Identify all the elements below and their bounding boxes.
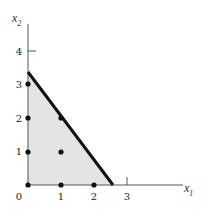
x-tick-label-0: 0 xyxy=(16,191,22,202)
x-axis-label: x1 xyxy=(183,181,193,198)
point-1-1 xyxy=(58,149,63,154)
feasible-region-diagram: 0 1 2 3 1 2 3 4 x1 x2 xyxy=(0,0,203,212)
y-tick-label-3: 3 xyxy=(16,79,22,90)
point-1-2 xyxy=(58,115,63,120)
point-0-3 xyxy=(25,81,30,86)
y-tick-label-4: 4 xyxy=(16,46,22,57)
x-tick-label-3: 3 xyxy=(124,191,130,202)
x-tick-label-1: 1 xyxy=(58,191,64,202)
point-0-0 xyxy=(25,182,30,187)
y-tick-label-2: 2 xyxy=(16,113,22,124)
y-tick-label-1: 1 xyxy=(16,146,22,157)
y-axis-label: x2 xyxy=(11,11,21,28)
point-0-2 xyxy=(25,115,30,120)
x-tick-label-2: 2 xyxy=(91,191,97,202)
point-0-1 xyxy=(25,149,30,154)
point-1-0 xyxy=(58,182,63,187)
point-2-0 xyxy=(91,182,96,187)
